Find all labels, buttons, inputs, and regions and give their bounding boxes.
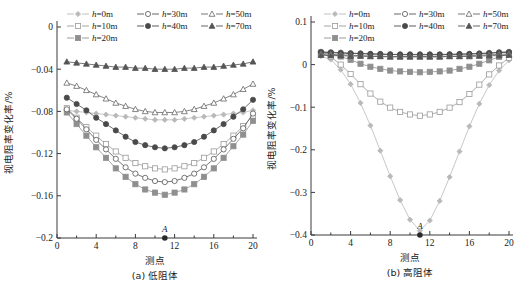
y-tick-label: −0.04 (31, 65, 53, 75)
data-point (182, 175, 187, 180)
series-h=10m (318, 50, 511, 118)
legend: h=0mh=30mh=50mh=10mh=40mh=70mh=20m (324, 9, 509, 43)
y-tick-label: −0.12 (31, 149, 53, 159)
legend-label: h=40m (162, 21, 188, 31)
data-point (487, 58, 492, 63)
y-tick-label: 0.1 (295, 17, 307, 27)
data-point (172, 190, 177, 195)
data-point (172, 166, 177, 171)
chart-b-canvas: 0.10−0.1−0.2−0.3−0.4048121620A测点(b) 高阻体视… (263, 0, 527, 281)
legend-marker (75, 23, 80, 28)
data-point (182, 116, 187, 121)
x-tick-label: 0 (309, 238, 314, 248)
data-point (437, 109, 442, 114)
data-point (467, 64, 472, 69)
legend-marker (75, 11, 80, 16)
legend-item-h=50m: h=50m (201, 9, 252, 19)
data-point (338, 62, 343, 67)
data-point (477, 101, 482, 106)
legend-marker (209, 23, 215, 28)
data-point (221, 142, 226, 147)
data-point (221, 96, 227, 101)
panel-caption: (b) 高阻体 (387, 267, 433, 278)
data-point (113, 156, 118, 161)
data-point (231, 92, 237, 97)
data-point (103, 121, 108, 126)
series-h=40m (64, 95, 255, 151)
legend-item-h=10m: h=10m (67, 21, 118, 31)
data-point (113, 166, 118, 171)
data-point (84, 87, 90, 92)
data-point (398, 197, 403, 202)
legend-item-h=30m: h=30m (137, 9, 188, 19)
data-point (172, 178, 177, 183)
data-point (211, 149, 216, 154)
chart-a-canvas: 0−0.04−0.08−0.12−0.16−0.2048121620A测点(a)… (0, 0, 263, 281)
y-axis-title: 视电阻率变化率/% (266, 87, 277, 169)
x-tick-label: 8 (133, 241, 138, 251)
data-point (103, 96, 109, 101)
series-h=0m (318, 53, 511, 233)
data-point (368, 123, 373, 128)
data-point (143, 164, 148, 169)
data-point (152, 166, 157, 171)
legend-marker (332, 35, 337, 40)
data-point (133, 160, 138, 165)
y-axis-title: 视电阻率变化率/% (3, 91, 14, 173)
legend-marker (466, 11, 472, 16)
data-point (74, 116, 79, 121)
data-point (113, 113, 118, 118)
data-point (211, 128, 216, 133)
data-point (133, 115, 138, 120)
data-point (152, 178, 157, 183)
data-point (447, 174, 452, 179)
data-point (84, 127, 89, 132)
data-point (250, 111, 255, 116)
data-point (172, 117, 177, 122)
data-point (123, 165, 128, 170)
legend-item-h=0m: h=0m (324, 9, 370, 19)
legend-marker (75, 35, 80, 40)
data-point (487, 72, 492, 77)
data-point (241, 126, 246, 131)
series-h=70m (64, 59, 256, 72)
data-point (133, 139, 138, 144)
data-point (143, 187, 148, 192)
data-point (250, 118, 255, 123)
data-point (123, 134, 128, 139)
data-point (94, 115, 99, 120)
data-point (437, 198, 442, 203)
data-point (368, 64, 373, 69)
legend-label: h=30m (419, 9, 445, 19)
data-point (487, 82, 492, 87)
data-point (103, 142, 108, 147)
data-point (64, 80, 70, 85)
data-point (93, 92, 99, 97)
x-tick-label: 12 (425, 238, 435, 248)
data-point (388, 105, 393, 110)
data-point (192, 139, 197, 144)
data-point (358, 100, 363, 105)
legend-item-h=20m: h=20m (324, 33, 375, 43)
data-point (427, 112, 432, 117)
data-point (447, 105, 452, 110)
legend-marker (332, 11, 337, 16)
legend-label: h=70m (483, 21, 509, 31)
legend-label: h=50m (483, 9, 509, 19)
legend-item-h=10m: h=10m (324, 21, 375, 31)
annotation-point-A: A (161, 224, 168, 241)
legend-item-h=0m: h=0m (67, 9, 113, 19)
data-point (250, 81, 256, 86)
data-point (378, 66, 383, 71)
data-point (211, 113, 216, 118)
x-tick-label: 12 (170, 241, 180, 251)
x-tick-label: 16 (209, 241, 219, 251)
data-point (64, 107, 69, 112)
data-point (407, 112, 412, 117)
data-point (417, 70, 422, 75)
series-group (64, 59, 256, 198)
data-point (368, 91, 373, 96)
data-point (94, 145, 99, 150)
data-point (162, 117, 167, 122)
x-tick-label: 4 (94, 241, 99, 251)
